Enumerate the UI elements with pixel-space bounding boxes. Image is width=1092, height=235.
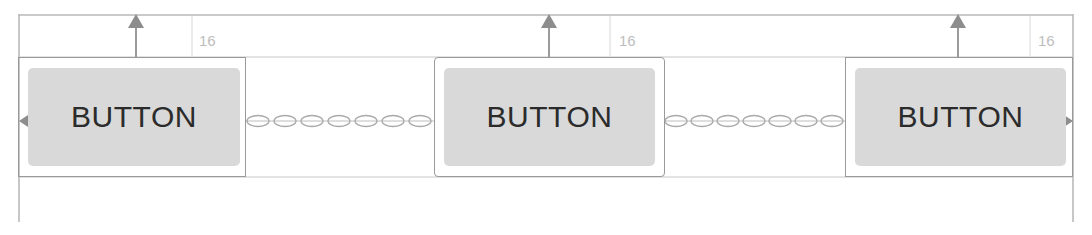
top-margin-label-2: 16 xyxy=(619,33,636,48)
top-margin-arrows xyxy=(128,14,966,57)
top-margin-arrow-1 xyxy=(128,14,144,57)
button-label: BUTTON xyxy=(71,102,197,132)
chain-connector-2[interactable] xyxy=(665,116,845,127)
margin-tick-marks xyxy=(192,16,1030,56)
top-margin-arrow-2 xyxy=(541,14,557,57)
top-margin-label-3: 16 xyxy=(1038,33,1055,48)
top-margin-label-1: 16 xyxy=(199,33,216,48)
chain-connector-1[interactable] xyxy=(246,116,434,127)
button-label: BUTTON xyxy=(898,102,1024,132)
top-margin-arrow-3 xyxy=(950,14,966,57)
button-label: BUTTON xyxy=(487,102,613,132)
button-3[interactable]: BUTTON xyxy=(855,68,1066,166)
layout-preview-canvas: BUTTON 16 BUTTON 16 BUTTON 16 xyxy=(0,0,1092,235)
button-2[interactable]: BUTTON xyxy=(444,68,655,166)
button-1[interactable]: BUTTON xyxy=(28,68,240,166)
